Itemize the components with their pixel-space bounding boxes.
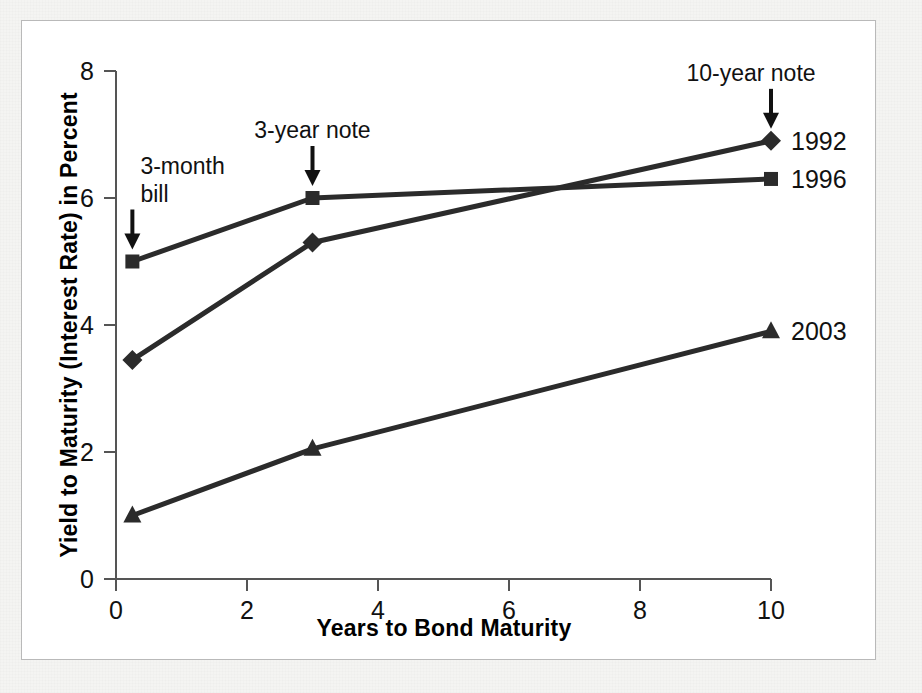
y-tick-label: 4 — [80, 311, 94, 339]
data-point-marker-square — [125, 255, 139, 269]
x-tick-label: 10 — [757, 596, 785, 624]
series-label-2003: 2003 — [791, 317, 847, 345]
annotation-label: 3-year note — [254, 117, 370, 143]
annotation-label: 3-month — [140, 153, 224, 179]
series-line-1992 — [132, 141, 771, 360]
series-line-2003 — [132, 331, 771, 515]
annotation-3-year-note: 3-year note — [254, 117, 370, 186]
x-tick-label: 0 — [109, 596, 123, 624]
x-axis-ticks — [116, 579, 771, 591]
series-end-labels: 199219962003 — [791, 127, 847, 346]
x-tick-label: 2 — [240, 596, 254, 624]
annotation-10-year-note: 10-year note — [686, 60, 815, 129]
figure-panel: 02468 0246810 199219962003 3-monthbill3-… — [21, 20, 876, 660]
annotation-label: bill — [140, 181, 168, 207]
annotation-arrow-head — [124, 234, 140, 250]
series-label-1996: 1996 — [791, 165, 847, 193]
data-point-marker-triangle — [762, 321, 780, 338]
series-1996 — [125, 172, 778, 269]
x-axis-title: Years to Bond Maturity — [317, 615, 572, 641]
x-tick-label: 8 — [633, 596, 647, 624]
annotation-arrow-head — [305, 170, 321, 186]
y-axis-tick-labels: 02468 — [80, 57, 94, 593]
series-label-1992: 1992 — [791, 127, 847, 155]
data-point-marker-square — [306, 191, 320, 205]
y-tick-label: 2 — [80, 438, 94, 466]
series-group — [122, 131, 781, 523]
annotation-label: 10-year note — [686, 60, 815, 86]
y-tick-label: 6 — [80, 184, 94, 212]
y-axis-title: Yield to Maturity (Interest Rate) in Per… — [56, 92, 82, 558]
series-line-1996 — [132, 179, 771, 262]
y-tick-label: 0 — [80, 565, 94, 593]
y-tick-label: 8 — [80, 57, 94, 85]
series-2003 — [123, 321, 780, 522]
data-point-marker-square — [764, 172, 778, 186]
yield-curve-chart: 02468 0246810 199219962003 3-monthbill3-… — [22, 21, 875, 659]
y-axis-ticks — [104, 71, 116, 579]
annotation-arrow-head — [763, 113, 779, 129]
data-point-marker-diamond — [761, 131, 781, 151]
